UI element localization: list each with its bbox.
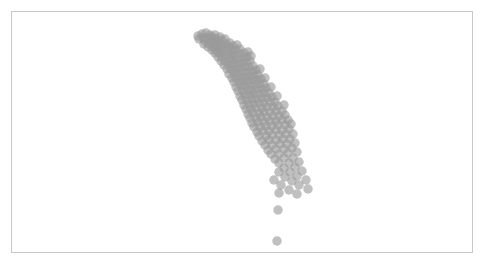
scatter-point [292, 189, 302, 199]
scatter-point [274, 188, 284, 198]
scatter-point [272, 236, 282, 246]
scatter-point [276, 180, 286, 190]
scatter-plot-figure [0, 0, 485, 274]
plot-frame-border [11, 11, 473, 253]
plot-area [12, 12, 472, 252]
scatter-point [303, 184, 313, 194]
scatter-point [294, 180, 304, 190]
scatter-points-layer [12, 12, 472, 252]
scatter-point [273, 205, 283, 215]
scatter-series [193, 28, 313, 246]
